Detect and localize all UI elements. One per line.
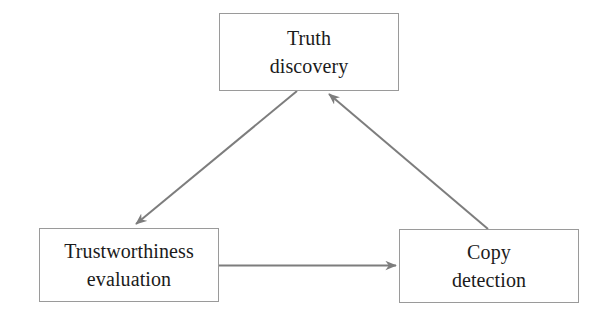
node-copy-detection-label: Copy detection	[452, 238, 526, 294]
node-truth-discovery-label: Truth discovery	[270, 24, 349, 80]
edge-truth-to-trustworthiness	[136, 91, 297, 224]
node-copy-detection: Copy detection	[399, 229, 579, 303]
edge-copy-to-truth	[329, 94, 488, 229]
node-trustworthiness-evaluation-label: Trustworthiness evaluation	[64, 237, 194, 293]
node-trustworthiness-evaluation: Trustworthiness evaluation	[39, 228, 219, 302]
node-truth-discovery: Truth discovery	[219, 13, 399, 91]
diagram-canvas: Truth discovery Trustworthiness evaluati…	[0, 0, 601, 324]
